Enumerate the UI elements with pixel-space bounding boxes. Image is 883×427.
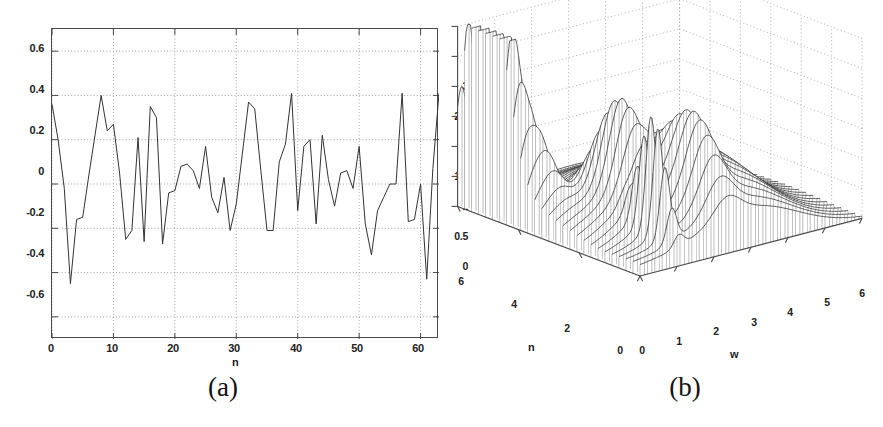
panel-a-xtick-4: 40 <box>283 342 309 354</box>
panel-a-line-plot: 0.6 0.4 0.2 0 -0.2 -0.4 -0.6 0 10 20 30 … <box>0 0 450 427</box>
panel-b-plot-svg <box>440 0 883 400</box>
panel-a-axes-box <box>51 28 438 338</box>
panel-a-xtick-0: 0 <box>38 342 64 354</box>
panel-a-xtick-1: 10 <box>99 342 125 354</box>
panel-a-xaxis-title: n <box>232 356 239 368</box>
figure-container: 0.6 0.4 0.2 0 -0.2 -0.4 -0.6 0 10 20 30 … <box>0 0 883 427</box>
panel-a-signal-line <box>52 93 439 283</box>
panel-a-xtick-3: 30 <box>221 342 247 354</box>
panel-a-ytick-3: 0 <box>0 165 44 177</box>
panel-a-ytick-2: 0.2 <box>0 124 44 136</box>
panel-a-caption: (a) <box>178 372 268 403</box>
panel-a-ytick-0: 0.6 <box>0 42 44 54</box>
panel-b-surface-plot: 3 2.5 2 1.5 1 0.5 0 6 4 2 0 0 1 2 3 4 5 … <box>440 0 883 427</box>
panel-a-ytick-5: -0.4 <box>0 247 44 259</box>
panel-a-xtick-5: 50 <box>344 342 370 354</box>
panel-a-xtick-6: 60 <box>405 342 431 354</box>
panel-a-ytick-4: -0.2 <box>0 206 44 218</box>
panel-a-ytick-1: 0.4 <box>0 83 44 95</box>
panel-a-ytick-6: -0.6 <box>0 288 44 300</box>
panel-a-plot-svg <box>52 29 439 339</box>
panel-a-xtick-2: 20 <box>160 342 186 354</box>
panel-b-mesh-surface <box>458 24 862 276</box>
panel-a-gridlines <box>52 29 439 339</box>
